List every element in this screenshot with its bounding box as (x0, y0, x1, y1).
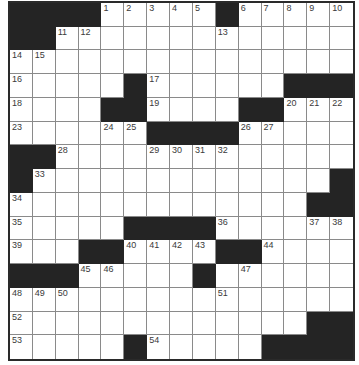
grid-cell[interactable] (79, 288, 102, 312)
grid-cell[interactable] (262, 288, 285, 312)
grid-cell[interactable]: 46 (101, 264, 124, 288)
grid-cell[interactable] (56, 74, 79, 98)
grid-cell[interactable] (216, 74, 239, 98)
grid-cell[interactable] (239, 312, 262, 336)
grid-cell[interactable] (262, 193, 285, 217)
grid-cell[interactable] (56, 98, 79, 122)
grid-cell[interactable] (170, 288, 193, 312)
grid-cell[interactable] (307, 264, 330, 288)
grid-cell[interactable] (284, 240, 307, 264)
grid-cell[interactable] (330, 288, 353, 312)
grid-cell[interactable]: 34 (10, 193, 33, 217)
grid-cell[interactable] (307, 122, 330, 146)
grid-cell[interactable] (307, 50, 330, 74)
grid-cell[interactable] (147, 312, 170, 336)
grid-cell[interactable] (101, 335, 124, 359)
grid-cell[interactable] (170, 264, 193, 288)
grid-cell[interactable]: 47 (239, 264, 262, 288)
grid-cell[interactable]: 30 (170, 145, 193, 169)
grid-cell[interactable] (33, 312, 56, 336)
grid-cell[interactable] (239, 74, 262, 98)
grid-cell[interactable]: 16 (10, 74, 33, 98)
grid-cell[interactable] (147, 50, 170, 74)
grid-cell[interactable]: 45 (79, 264, 102, 288)
grid-cell[interactable] (262, 27, 285, 51)
grid-cell[interactable]: 38 (330, 217, 353, 241)
grid-cell[interactable]: 41 (147, 240, 170, 264)
grid-cell[interactable] (56, 122, 79, 146)
grid-cell[interactable] (284, 169, 307, 193)
grid-cell[interactable]: 14 (10, 50, 33, 74)
grid-cell[interactable] (124, 169, 147, 193)
grid-cell[interactable] (262, 217, 285, 241)
grid-cell[interactable] (79, 169, 102, 193)
grid-cell[interactable]: 22 (330, 98, 353, 122)
grid-cell[interactable] (56, 217, 79, 241)
grid-cell[interactable] (33, 217, 56, 241)
grid-cell[interactable] (262, 169, 285, 193)
grid-cell[interactable] (56, 193, 79, 217)
grid-cell[interactable] (307, 145, 330, 169)
grid-cell[interactable] (33, 335, 56, 359)
grid-cell[interactable]: 28 (56, 145, 79, 169)
grid-cell[interactable] (101, 50, 124, 74)
grid-cell[interactable] (216, 193, 239, 217)
grid-cell[interactable]: 3 (147, 3, 170, 27)
grid-cell[interactable] (239, 335, 262, 359)
grid-cell[interactable] (124, 264, 147, 288)
grid-cell[interactable] (284, 145, 307, 169)
grid-cell[interactable] (79, 74, 102, 98)
grid-cell[interactable]: 24 (101, 122, 124, 146)
grid-cell[interactable] (193, 312, 216, 336)
grid-cell[interactable] (284, 122, 307, 146)
grid-cell[interactable]: 20 (284, 98, 307, 122)
grid-cell[interactable] (193, 98, 216, 122)
grid-cell[interactable] (170, 169, 193, 193)
grid-cell[interactable]: 1 (101, 3, 124, 27)
grid-cell[interactable] (284, 50, 307, 74)
grid-cell[interactable] (239, 27, 262, 51)
grid-cell[interactable] (101, 193, 124, 217)
grid-cell[interactable] (147, 27, 170, 51)
grid-cell[interactable]: 19 (147, 98, 170, 122)
grid-cell[interactable]: 54 (147, 335, 170, 359)
grid-cell[interactable] (79, 98, 102, 122)
grid-cell[interactable]: 15 (33, 50, 56, 74)
grid-cell[interactable] (147, 193, 170, 217)
grid-cell[interactable]: 25 (124, 122, 147, 146)
grid-cell[interactable] (170, 50, 193, 74)
grid-cell[interactable] (193, 193, 216, 217)
grid-cell[interactable] (101, 169, 124, 193)
grid-cell[interactable]: 40 (124, 240, 147, 264)
grid-cell[interactable]: 51 (216, 288, 239, 312)
grid-cell[interactable] (307, 288, 330, 312)
grid-cell[interactable]: 27 (262, 122, 285, 146)
grid-cell[interactable] (239, 193, 262, 217)
grid-cell[interactable] (262, 264, 285, 288)
grid-cell[interactable] (170, 193, 193, 217)
grid-cell[interactable]: 23 (10, 122, 33, 146)
grid-cell[interactable] (147, 169, 170, 193)
grid-cell[interactable]: 17 (147, 74, 170, 98)
grid-cell[interactable] (284, 193, 307, 217)
grid-cell[interactable] (101, 145, 124, 169)
grid-cell[interactable] (262, 145, 285, 169)
grid-cell[interactable] (193, 335, 216, 359)
grid-cell[interactable]: 32 (216, 145, 239, 169)
grid-cell[interactable]: 53 (10, 335, 33, 359)
grid-cell[interactable] (56, 169, 79, 193)
grid-cell[interactable] (330, 264, 353, 288)
grid-cell[interactable]: 52 (10, 312, 33, 336)
grid-cell[interactable] (33, 98, 56, 122)
grid-cell[interactable] (170, 312, 193, 336)
grid-cell[interactable]: 36 (216, 217, 239, 241)
grid-cell[interactable] (216, 312, 239, 336)
grid-cell[interactable] (216, 169, 239, 193)
grid-cell[interactable] (239, 50, 262, 74)
grid-cell[interactable]: 8 (284, 3, 307, 27)
grid-cell[interactable] (193, 74, 216, 98)
grid-cell[interactable] (124, 312, 147, 336)
grid-cell[interactable] (330, 145, 353, 169)
grid-cell[interactable] (56, 240, 79, 264)
grid-cell[interactable]: 10 (330, 3, 353, 27)
